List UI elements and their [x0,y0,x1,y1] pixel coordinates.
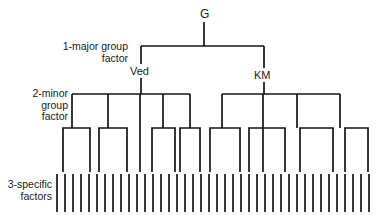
specific-factor-ticks [57,174,369,212]
level3-bracket-1 [63,128,90,172]
node-label-general: G [199,8,210,20]
level3-bracket-9 [345,128,368,172]
level-label-specific-line1: 3-specific [2,179,52,191]
level-label-major-group-factor: 1-major group factor [28,41,128,64]
level3-bracket-6 [210,128,240,172]
level-label-minor-line3: factor [12,111,68,123]
node-label-ved: Ved [129,66,150,77]
level3-bracket-5 [180,128,200,172]
level3-bracket-4 [152,128,175,172]
level-label-minor-line1: 2-minor [12,88,68,100]
level-label-specific-line2: factors [2,191,52,203]
level-label-major-line1: 1-major group [28,41,128,53]
level3-bracket-7 [249,128,285,172]
node-label-km: KM [253,70,272,81]
level-label-minor-group-factor: 2-minor group factor [12,88,68,123]
level3-bracket-3 [99,128,127,172]
level3-bracket-8 [300,128,333,172]
level-label-major-line2: factor [28,53,128,65]
level-label-specific-factors: 3-specific factors [2,179,52,202]
diagram-canvas: G Ved KM 1-major group factor 2-minor gr… [0,0,378,224]
